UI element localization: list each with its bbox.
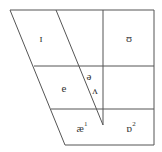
symbol-near-open-front: æ1: [77, 123, 88, 134]
divider-diagonal: [56, 10, 103, 125]
symbol-text: e: [62, 82, 67, 94]
symbol-text: ʌ: [92, 84, 98, 96]
symbol-near-close-back: ʊ: [126, 33, 132, 44]
footnote-marker: 1: [84, 120, 88, 128]
symbol-text: ɒ: [126, 122, 132, 134]
footnote-marker: 2: [132, 120, 136, 128]
symbol-open-mid-back: ʌ: [92, 85, 98, 96]
symbol-open-back-rounded: ɒ2: [126, 123, 135, 134]
symbol-text: ʊ: [126, 32, 132, 44]
symbol-near-close-front: ɪ: [39, 33, 42, 44]
symbol-text: ɪ: [39, 32, 42, 44]
symbol-mid-central: ə: [87, 71, 92, 82]
symbol-mid-front: e: [62, 83, 67, 94]
symbol-text: ə: [87, 70, 92, 82]
